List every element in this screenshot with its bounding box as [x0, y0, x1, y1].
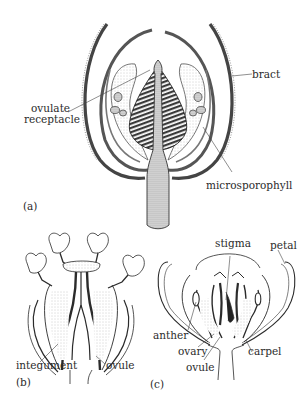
- panel-label-c: (c): [150, 378, 164, 390]
- label-ovule-b: ovule: [106, 360, 135, 371]
- panel-c-drawing: [158, 250, 295, 380]
- label-ovulate-receptacle-line2: receptacle: [24, 114, 80, 125]
- faint-caption-band: [20, 393, 290, 399]
- botanical-figure: bract ovulate receptacle microsporophyll…: [0, 0, 308, 403]
- label-carpel: carpel: [248, 346, 281, 357]
- diagram-illustration: [0, 0, 308, 403]
- panel-label-b: (b): [16, 376, 31, 388]
- label-anther: anther: [153, 330, 188, 341]
- label-bract: bract: [252, 69, 280, 80]
- label-integument: integument: [16, 360, 77, 371]
- label-stigma: stigma: [215, 238, 251, 249]
- label-ovule-c: ovule: [186, 362, 215, 373]
- label-microsporophyll: microsporophyll: [206, 180, 292, 191]
- label-petal: petal: [270, 240, 297, 251]
- panel-a-drawing: [68, 24, 252, 229]
- label-ovary: ovary: [178, 346, 207, 357]
- panel-label-a: (a): [23, 200, 37, 212]
